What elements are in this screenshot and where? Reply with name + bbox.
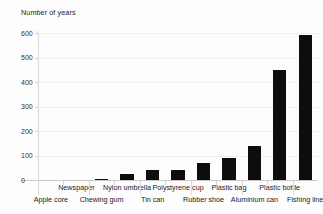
y-tick-label: 500: [21, 54, 35, 61]
bar: [197, 163, 210, 180]
bar: [95, 179, 108, 180]
x-category-separator: [63, 181, 64, 185]
gridline: [38, 58, 318, 59]
x-category-separator: [191, 181, 192, 195]
x-tick-label: Nylon umbrella: [103, 184, 151, 192]
y-tick-label: 0: [21, 177, 35, 184]
bar: [273, 70, 286, 180]
x-category-separator: [114, 181, 115, 185]
bar: [171, 170, 184, 180]
y-tick-mark: [35, 82, 38, 83]
y-tick-label: 400: [21, 79, 35, 86]
y-tick-label: 100: [21, 152, 35, 159]
y-tick-label: 200: [21, 128, 35, 135]
x-tick-label: Fishing line: [287, 196, 323, 204]
x-tick-label: Apple core: [34, 196, 68, 204]
x-category-separator: [140, 181, 141, 195]
bar-chart: Number of years 0100200300400500600 Appl…: [0, 0, 323, 214]
y-tick-mark: [35, 107, 38, 108]
x-category-separator: [216, 181, 217, 185]
y-tick-mark: [35, 58, 38, 59]
bar: [222, 158, 235, 180]
x-category-separator: [89, 181, 90, 195]
x-tick-label: Aluminium can: [231, 196, 278, 204]
y-tick-mark: [35, 131, 38, 132]
bar: [299, 35, 312, 180]
x-tick-label: Chewing gum: [80, 196, 124, 204]
x-axis-line: [21, 180, 318, 181]
plot-area: [38, 33, 318, 180]
x-tick-label: Plastic bottle: [259, 184, 300, 192]
x-category-separator: [242, 181, 243, 195]
y-tick-mark: [35, 33, 38, 34]
x-category-separator: [165, 181, 166, 185]
x-category-separator: [293, 181, 294, 195]
x-category-separator: [267, 181, 268, 185]
x-tick-label: Polystyrene cup: [153, 184, 204, 192]
x-category-separator: [38, 181, 39, 195]
y-tick-mark: [35, 156, 38, 157]
x-tick-label: Rubber shoe: [183, 196, 224, 204]
y-axis-title: Number of years: [21, 8, 76, 17]
bar: [248, 146, 261, 180]
x-tick-label: Tin can: [141, 196, 164, 204]
bar: [146, 170, 159, 180]
gridline: [38, 33, 318, 34]
y-tick-label: 300: [21, 103, 35, 110]
y-tick-label: 600: [21, 30, 35, 37]
bar: [120, 174, 133, 180]
